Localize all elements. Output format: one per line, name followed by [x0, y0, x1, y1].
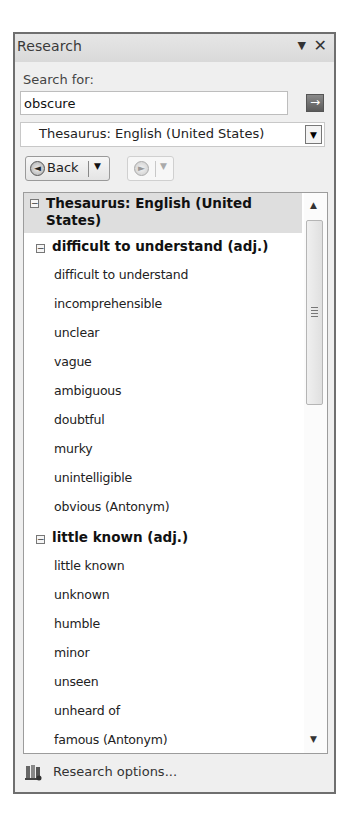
vertical-scrollbar[interactable]: ▲ ▼: [304, 193, 327, 753]
group-heading[interactable]: difficult to understand (adj.): [52, 238, 268, 254]
pane-menu-icon[interactable]: ▼: [298, 39, 306, 52]
list-item[interactable]: ambiguous: [54, 383, 121, 398]
list-item[interactable]: little known: [54, 558, 124, 573]
forward-history-dropdown-icon[interactable]: ▼: [160, 161, 167, 171]
collapse-icon[interactable]: −: [36, 244, 45, 253]
list-item[interactable]: murky: [54, 441, 92, 456]
reference-source-dropdown[interactable]: Thesaurus: English (United States) ▼: [20, 122, 325, 147]
pane-titlebar: Research ▼ ✕: [15, 34, 334, 62]
list-item[interactable]: humble: [54, 616, 100, 631]
list-item[interactable]: unknown: [54, 587, 109, 602]
list-item[interactable]: unheard of: [54, 703, 120, 718]
list-item[interactable]: unclear: [54, 325, 99, 340]
pane-title: Research: [17, 38, 82, 54]
collapse-icon[interactable]: −: [30, 199, 39, 208]
scrollbar-thumb[interactable]: [306, 220, 323, 405]
arrow-right-icon: →: [310, 95, 320, 109]
grip-icon: [311, 307, 318, 317]
back-arrow-icon: ◄: [30, 161, 45, 176]
close-icon[interactable]: ✕: [314, 36, 327, 55]
section-title: Thesaurus: English (United States): [46, 195, 286, 229]
back-history-dropdown-icon[interactable]: ▼: [94, 161, 101, 171]
start-search-button[interactable]: →: [306, 94, 324, 112]
list-item[interactable]: doubtful: [54, 412, 105, 427]
group-heading[interactable]: little known (adj.): [52, 529, 188, 545]
search-input[interactable]: [20, 91, 288, 115]
search-for-label: Search for:: [23, 72, 94, 87]
back-button[interactable]: ◄ Back ▼: [25, 156, 110, 181]
reference-source-value: Thesaurus: English (United States): [39, 126, 264, 141]
list-item[interactable]: obvious (Antonym): [54, 499, 169, 514]
list-item[interactable]: incomprehensible: [54, 296, 162, 311]
scroll-down-icon[interactable]: ▼: [310, 734, 317, 744]
forward-button[interactable]: ► ▼: [127, 156, 174, 181]
section-header[interactable]: − Thesaurus: English (United States): [24, 193, 302, 233]
research-options-label: Research options...: [53, 764, 177, 779]
list-item[interactable]: minor: [54, 645, 89, 660]
scroll-up-icon[interactable]: ▲: [310, 200, 317, 210]
button-divider: [155, 161, 156, 177]
button-divider: [88, 161, 89, 177]
list-item[interactable]: vague: [54, 354, 92, 369]
research-options-icon: [25, 763, 42, 781]
list-item[interactable]: unintelligible: [54, 470, 132, 485]
results-list: − Thesaurus: English (United States) − d…: [23, 192, 328, 754]
list-item[interactable]: difficult to understand: [54, 267, 188, 282]
back-label: Back: [47, 160, 79, 175]
collapse-icon[interactable]: −: [36, 535, 45, 544]
list-item[interactable]: famous (Antonym): [54, 732, 167, 747]
forward-arrow-icon: ►: [134, 161, 149, 176]
list-item[interactable]: unseen: [54, 674, 98, 689]
chevron-down-icon[interactable]: ▼: [305, 125, 322, 144]
research-pane: Research ▼ ✕ Search for: → Thesaurus: En…: [13, 32, 336, 794]
